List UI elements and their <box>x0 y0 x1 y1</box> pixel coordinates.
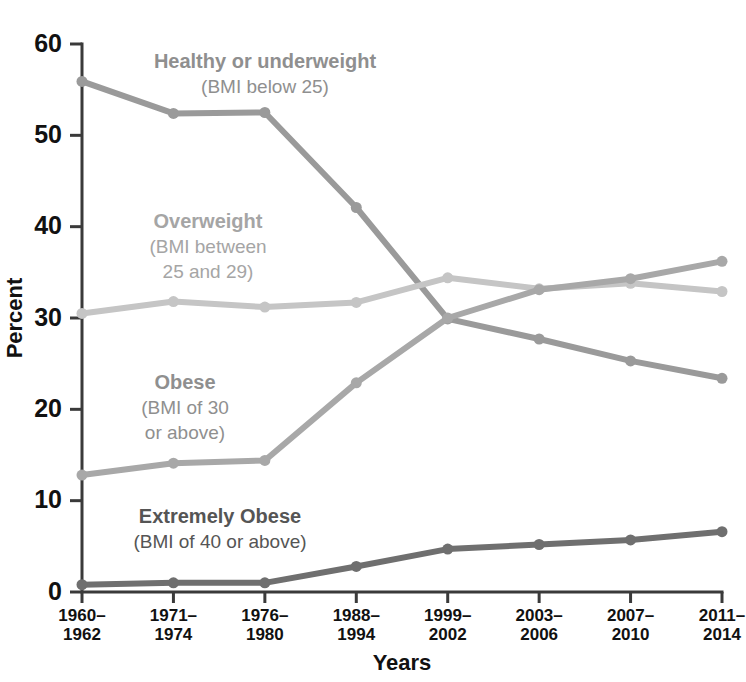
x-tick-label-line1: 2007– <box>607 606 654 625</box>
data-point <box>625 273 636 284</box>
x-tick-label-line2: 2006 <box>520 625 558 644</box>
y-axis-title: Percent <box>2 277 27 358</box>
x-tick-label-line2: 2014 <box>703 625 741 644</box>
y-tick-label: 10 <box>34 485 62 513</box>
data-point <box>259 455 270 466</box>
x-tick-label: 1960–1962 <box>58 606 105 644</box>
x-tick-label-line1: 2003– <box>516 606 563 625</box>
data-point <box>442 313 453 324</box>
data-point <box>442 544 453 555</box>
y-tick-label: 20 <box>34 394 62 422</box>
annotation-title: Overweight <box>154 210 263 232</box>
obesity-trend-line-chart: 01020304050601960–19621971–19741976–1980… <box>0 0 746 682</box>
x-tick-label: 1976–1980 <box>241 606 288 644</box>
annotation-subtitle-line1: (BMI of 30 <box>141 397 229 418</box>
data-point <box>717 256 728 267</box>
data-point <box>259 302 270 313</box>
data-point <box>77 76 88 87</box>
x-tick-label-line1: 1999– <box>424 606 471 625</box>
x-tick-label-line1: 1971– <box>150 606 197 625</box>
x-tick-label-line1: 1976– <box>241 606 288 625</box>
data-point <box>168 296 179 307</box>
annotation-title: Extremely Obese <box>139 505 301 527</box>
annotation-subtitle-line1: (BMI between <box>149 236 266 257</box>
data-point <box>351 377 362 388</box>
x-tick-label: 2003–2006 <box>516 606 563 644</box>
annotation-subtitle-line2: 25 and 29) <box>163 261 254 282</box>
data-point <box>77 470 88 481</box>
annotation-overweight: Overweight(BMI between25 and 29) <box>149 210 266 282</box>
x-axis-title: Years <box>373 650 432 675</box>
x-tick-label-line2: 2010 <box>612 625 650 644</box>
data-point <box>351 297 362 308</box>
data-point <box>534 334 545 345</box>
data-point <box>717 286 728 297</box>
x-tick-label: 1971–1974 <box>150 606 197 644</box>
x-tick-label-line2: 1962 <box>63 625 101 644</box>
data-point <box>259 577 270 588</box>
data-point <box>351 202 362 213</box>
series-path <box>82 261 722 475</box>
x-tick-label-line2: 2002 <box>429 625 467 644</box>
x-tick-label-line1: 1960– <box>58 606 105 625</box>
annotation-subtitle-line1: (BMI of 40 or above) <box>133 531 306 552</box>
annotation-title: Obese <box>154 371 215 393</box>
x-tick-label: 2011–2014 <box>699 606 745 644</box>
x-tick-label-line2: 1974 <box>155 625 193 644</box>
x-tick-label-line1: 2011– <box>699 606 745 625</box>
x-tick-label-line2: 1994 <box>337 625 375 644</box>
x-tick-label: 1988–1994 <box>333 606 380 644</box>
data-point <box>168 577 179 588</box>
data-point <box>351 561 362 572</box>
y-tick-label: 40 <box>34 211 62 239</box>
annotation-extremely-obese: Extremely Obese(BMI of 40 or above) <box>133 505 306 552</box>
x-tick-label-line1: 1988– <box>333 606 380 625</box>
annotation-title: Healthy or underweight <box>154 50 377 72</box>
data-point <box>625 534 636 545</box>
data-point <box>77 308 88 319</box>
data-point <box>717 373 728 384</box>
y-tick-label: 60 <box>34 29 62 57</box>
x-tick-label-line2: 1980 <box>246 625 284 644</box>
data-point <box>625 355 636 366</box>
data-point <box>534 539 545 550</box>
annotation-obese: Obese(BMI of 30or above) <box>141 371 229 443</box>
x-tick-label: 1999–2002 <box>424 606 471 644</box>
data-point <box>717 526 728 537</box>
data-point <box>168 458 179 469</box>
y-tick-label: 30 <box>34 303 62 331</box>
annotation-subtitle-line2: or above) <box>145 422 225 443</box>
data-point <box>168 108 179 119</box>
y-tick-label: 0 <box>48 577 62 605</box>
annotation-subtitle-line1: (BMI below 25) <box>201 76 329 97</box>
data-point <box>259 107 270 118</box>
annotation-healthy: Healthy or underweight(BMI below 25) <box>154 50 377 97</box>
data-point <box>534 284 545 295</box>
x-tick-label: 2007–2010 <box>607 606 654 644</box>
data-point <box>442 272 453 283</box>
chart-container: 01020304050601960–19621971–19741976–1980… <box>0 0 746 682</box>
y-tick-label: 50 <box>34 120 62 148</box>
data-point <box>77 579 88 590</box>
